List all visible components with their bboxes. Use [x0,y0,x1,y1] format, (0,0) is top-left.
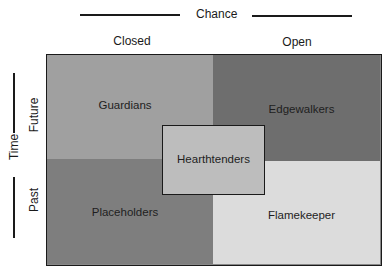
time-axis-line-top [13,73,15,133]
time-axis-title: Time [7,134,21,160]
column-label-open: Open [282,35,311,49]
center-label-hearthtenders: Hearthtenders [177,153,250,165]
quadrant-label-placeholders: Placeholders [92,206,158,218]
quadrant-label-flamekeeper: Flamekeeper [268,209,335,221]
row-label-past: Past [27,188,41,212]
column-label-closed: Closed [113,34,150,48]
chance-axis-line-right [252,15,352,17]
chance-axis-line-left [80,14,180,16]
quadrant-label-edgewalkers: Edgewalkers [269,103,335,115]
row-label-future: Future [27,98,41,133]
time-axis-line-bottom [13,177,15,238]
chance-axis-title: Chance [196,7,237,21]
center-box-hearthtenders: Hearthtenders [162,125,265,195]
quadrant-label-guardians: Guardians [98,99,151,111]
